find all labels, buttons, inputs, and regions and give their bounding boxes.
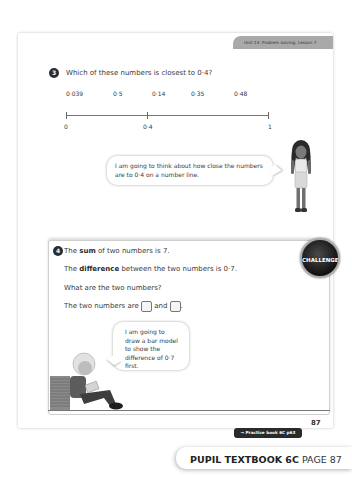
number-line-label-0-4: 0·4 bbox=[143, 123, 153, 130]
girl-character-icon bbox=[284, 138, 318, 216]
text: The bbox=[64, 265, 79, 273]
boy-reading-character-icon bbox=[50, 350, 130, 411]
page-label: PAGE 87 bbox=[302, 454, 342, 465]
question-4-line-3: What are the two numbers? bbox=[64, 284, 162, 292]
text: The two numbers are bbox=[64, 302, 139, 310]
speech-text: I am going to draw a bar model to show t… bbox=[125, 328, 178, 369]
text: and bbox=[154, 302, 167, 310]
question-4-line-2: The difference between the two numbers i… bbox=[64, 265, 237, 273]
unit-lesson-tab: Unit 14: Problem solving, Lesson 7 bbox=[233, 36, 333, 49]
keyword-difference: difference bbox=[79, 265, 119, 273]
tick-0-4 bbox=[147, 112, 148, 119]
number-line-label-1: 1 bbox=[268, 123, 272, 130]
text: between the two numbers is 0·7. bbox=[119, 265, 237, 273]
text: of two numbers is 7. bbox=[96, 247, 170, 255]
text: The bbox=[64, 247, 79, 255]
question-4-line-1: The sum of two numbers is 7. bbox=[64, 247, 170, 255]
tick-1 bbox=[268, 112, 269, 119]
question-3-number-badge: 3 bbox=[49, 68, 59, 78]
page-number: 87 bbox=[311, 419, 321, 427]
answer-box-2[interactable] bbox=[170, 301, 181, 312]
question-4-number-badge: 4 bbox=[53, 246, 63, 256]
challenge-label: CHALLENGE bbox=[302, 257, 339, 263]
question-4-line-4: The two numbers are and . bbox=[64, 301, 183, 312]
book-title: PUPIL TEXTBOOK 6C bbox=[190, 454, 299, 465]
number-line-label-0: 0 bbox=[64, 123, 68, 130]
keyword-sum: sum bbox=[79, 247, 95, 255]
text: . bbox=[181, 302, 183, 310]
unit-lesson-label: Unit 14: Problem solving, Lesson 7 bbox=[244, 40, 316, 45]
answer-box-1[interactable] bbox=[141, 301, 152, 312]
ground-line bbox=[48, 410, 330, 411]
question-3-prompt: Which of these numbers is closest to 0·4… bbox=[66, 69, 212, 77]
speech-bubble-q3: I am going to think about how close the … bbox=[107, 156, 273, 185]
book-page-footer: PUPIL TEXTBOOK 6CPAGE 87 bbox=[176, 447, 352, 469]
challenge-badge-icon: CHALLENGE bbox=[300, 238, 340, 278]
option-value: 0·48 bbox=[234, 90, 247, 97]
option-value: 0·039 bbox=[66, 90, 83, 97]
number-line bbox=[66, 115, 269, 116]
option-value: 0·14 bbox=[152, 90, 165, 97]
option-value: 0·5 bbox=[113, 90, 123, 97]
option-value: 0·35 bbox=[191, 90, 204, 97]
tick-0 bbox=[66, 112, 67, 119]
practice-book-link[interactable]: → Practice book 6C p63 bbox=[234, 428, 302, 438]
speech-text: I am going to think about how close the … bbox=[115, 162, 263, 178]
